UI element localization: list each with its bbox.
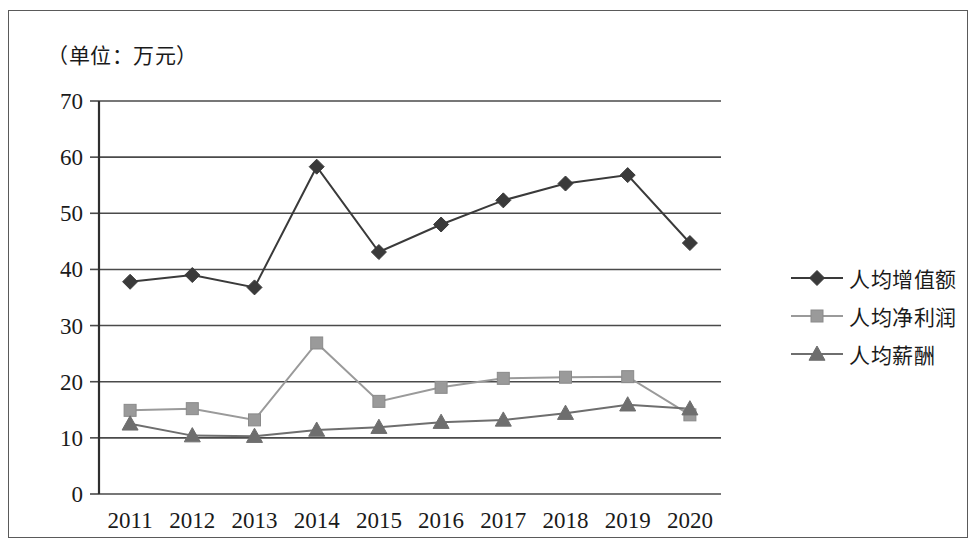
x-axis-tick-label: 2014 [294,508,341,533]
x-axis-tick-label: 2018 [543,508,589,533]
y-axis-tick-label: 50 [60,201,83,226]
y-axis-tick-label: 20 [60,370,83,395]
square-marker-icon [186,403,198,415]
legend-label: 人均净利润 [849,301,957,331]
legend-item[interactable]: 人均净利润 [789,297,978,335]
square-marker-icon [622,371,634,383]
square-marker-icon [435,381,447,393]
legend-label: 人均薪酬 [849,339,935,369]
legend-marker [789,305,845,327]
y-axis-tick-label: 30 [60,314,83,339]
diamond-marker-icon [247,280,262,295]
series-line [130,405,690,436]
x-axis-tick-label: 2011 [108,508,153,533]
square-marker-icon [497,372,509,384]
x-axis-tick-label: 2017 [480,508,526,533]
square-marker-icon [311,337,323,349]
x-axis-tick-label: 2012 [169,508,215,533]
legend-item[interactable]: 人均薪酬 [789,335,978,373]
square-marker-icon [811,310,823,322]
x-axis-tick-label: 2015 [356,508,402,533]
x-axis-tick-label: 2013 [232,508,278,533]
diamond-marker-icon [810,271,825,286]
chart-legend: 人均增值额人均净利润人均薪酬 [789,259,978,373]
legend-label: 人均增值额 [849,263,957,293]
diamond-marker-icon [434,217,449,232]
y-axis-tick-label: 0 [72,482,84,507]
legend-marker [789,267,845,289]
y-axis-tick-label: 40 [60,257,83,282]
legend-item[interactable]: 人均增值额 [789,259,978,297]
square-marker-icon [249,414,261,426]
y-axis-tick-label: 70 [60,89,83,114]
figure-frame: （单位：万元） 01020304050607020112012201320142… [8,10,968,538]
square-marker-icon [373,395,385,407]
x-axis-tick-label: 2019 [605,508,651,533]
diamond-marker-icon [496,193,511,208]
diamond-marker-icon [123,274,138,289]
y-axis-tick-label: 60 [60,145,83,170]
legend-marker [789,343,845,365]
x-axis-tick-label: 2016 [418,508,464,533]
x-axis-tick-label: 2020 [667,508,713,533]
diamond-marker-icon [558,176,573,191]
square-marker-icon [560,371,572,383]
square-marker-icon [124,404,136,416]
y-axis-tick-label: 10 [60,426,83,451]
chart-page: （单位：万元） 01020304050607020112012201320142… [0,0,978,544]
diamond-marker-icon [371,245,386,260]
triangle-marker-icon [122,416,138,430]
diamond-marker-icon [309,159,324,174]
triangle-marker-icon [620,397,636,411]
